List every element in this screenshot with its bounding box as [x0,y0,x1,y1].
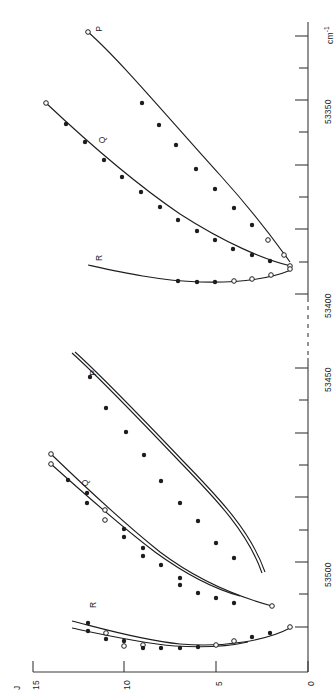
data-point-filled [140,101,144,105]
data-point-open [49,452,54,457]
data-point-open [122,644,127,649]
data-point-filled [120,175,124,179]
data-point-filled [178,576,182,580]
data-point-filled [250,253,254,257]
wavenumber-tick-label-53450: 53450 [323,367,333,392]
j-tick-label-5: 5 [214,681,224,686]
data-point-filled [232,556,236,560]
data-point-filled [214,541,218,545]
upper-p-branch-curve [88,32,290,262]
data-point-filled [83,140,87,144]
wavenumber-ticks [295,36,308,627]
data-point-open [86,30,91,35]
data-point-filled [268,631,272,635]
data-point-filled [159,563,163,567]
data-point-open [103,518,108,523]
branch-label-lower-r: R [88,602,98,608]
data-point-open [282,253,287,258]
data-point-filled [66,478,70,482]
data-point-filled [195,229,199,233]
upper-r-branch-curve [88,265,291,282]
j-tick-label-10: 10 [122,680,132,690]
wavenumber-tick-label-53500: 53500 [323,562,333,587]
data-point-filled [159,646,163,650]
data-point-filled [157,123,161,127]
upper-q-branch-curve [46,103,291,266]
data-point-open [250,277,255,282]
data-point-filled [176,279,180,283]
data-point-filled [214,596,218,600]
data-point-open [232,279,237,284]
data-point-open [104,631,109,636]
data-point-filled [85,501,89,505]
data-point-filled [213,280,217,284]
data-point-filled [122,535,126,539]
branch-label-lower-q: Q [80,480,90,487]
data-point-filled [86,621,90,625]
data-point-filled [159,479,163,483]
lower-r-points [86,621,293,650]
data-point-filled [142,453,146,457]
lower-q-points [49,452,275,609]
data-point-filled [122,639,126,643]
data-point-filled [141,646,145,650]
branch-label-upper-p: P [94,26,104,32]
j-ticks [33,661,308,672]
branch-label-lower-p: P [88,370,98,376]
data-point-filled [174,143,178,147]
upper-system-curves [46,32,291,282]
data-point-filled [213,238,217,242]
branch-label-upper-r: R [94,255,104,261]
wavenumber-tick-label-53400: 53400 [323,293,333,318]
data-point-filled [85,491,89,495]
data-point-filled [64,122,68,126]
lower-system-curves [51,352,290,647]
data-point-open [288,267,293,272]
data-point-filled [139,190,143,194]
data-point-filled [141,546,145,550]
data-point-open [44,101,49,106]
j-tick-label-15: 15 [31,680,41,690]
data-point-filled [141,554,145,558]
data-point-filled [232,206,236,210]
data-point-filled [86,629,90,633]
data-point-filled [178,583,182,587]
data-point-open [214,643,219,648]
lower-p-branch-curve-b [75,352,265,572]
j-axis-label: J [12,686,22,690]
data-point-open [269,273,274,278]
data-point-open [49,462,54,467]
data-point-filled [194,167,198,171]
data-point-open [266,238,271,243]
data-point-filled [122,527,126,531]
data-point-open [270,604,275,609]
data-point-filled [104,406,108,410]
upper-q-points [44,101,293,269]
data-point-open [288,625,293,630]
j-tick-label-0: 0 [306,681,316,686]
data-point-filled [176,218,180,222]
branch-label-upper-q: Q [97,137,107,144]
data-point-filled [268,259,272,263]
data-point-open [232,639,237,644]
data-point-open [103,508,108,513]
wavenumber-unit-label: cm-1 [323,26,335,44]
lower-p-points [88,375,236,560]
upper-p-points [86,30,287,258]
data-point-filled [196,645,200,649]
data-point-filled [196,591,200,595]
data-point-filled [196,519,200,523]
data-point-filled [250,635,254,639]
data-point-filled [232,601,236,605]
data-point-filled [178,501,182,505]
data-point-filled [213,187,217,191]
data-point-filled [104,637,108,641]
lower-p-branch-curve-a [72,353,262,573]
data-point-filled [231,247,235,251]
data-point-filled [158,205,162,209]
data-point-filled [195,280,199,284]
data-point-filled [124,430,128,434]
data-point-filled [250,223,254,227]
